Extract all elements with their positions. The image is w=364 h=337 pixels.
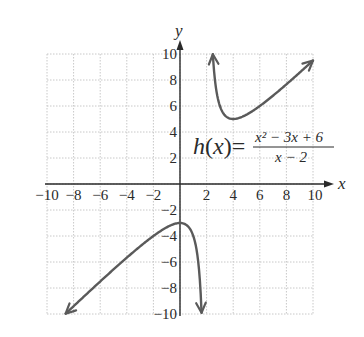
x-tick-label: 4 xyxy=(229,187,237,203)
y-axis-label: y xyxy=(173,21,183,40)
y-tick-label: −10 xyxy=(154,306,177,322)
y-tick-label: 4 xyxy=(170,124,178,140)
y-tick-label: 8 xyxy=(170,72,178,88)
y-axis-arrow-icon xyxy=(177,40,184,50)
x-tick-label: 2 xyxy=(203,187,211,203)
y-tick-label: −6 xyxy=(161,254,177,270)
y-tick-label: 6 xyxy=(170,98,178,114)
x-tick-label: −2 xyxy=(145,187,161,203)
curve-lower-branch xyxy=(66,223,202,314)
equation-lhs: h(x)= xyxy=(193,133,245,159)
x-tick-label: −8 xyxy=(66,187,82,203)
equation-numerator: x² − 3x + 6 xyxy=(254,129,324,145)
x-tick-label: 8 xyxy=(283,187,291,203)
x-tick-label: −10 xyxy=(35,187,58,203)
curve-upper-branch xyxy=(213,54,313,119)
x-axis-label: x xyxy=(337,174,346,193)
y-tick-label: 10 xyxy=(162,46,177,62)
x-tick-label: −4 xyxy=(119,187,135,203)
x-tick-label: 10 xyxy=(308,187,323,203)
x-tick-label: −6 xyxy=(92,187,108,203)
function-graph: −10−8−6−4−2246810108642−2−4−6−8−10 x y h… xyxy=(0,0,364,337)
equation-denominator: x − 2 xyxy=(274,149,307,165)
y-tick-label: 2 xyxy=(170,150,178,166)
x-axis-arrow-icon xyxy=(324,181,334,188)
x-tick-label: 6 xyxy=(256,187,264,203)
y-tick-label: −8 xyxy=(161,280,177,296)
y-tick-label: −2 xyxy=(161,202,177,218)
